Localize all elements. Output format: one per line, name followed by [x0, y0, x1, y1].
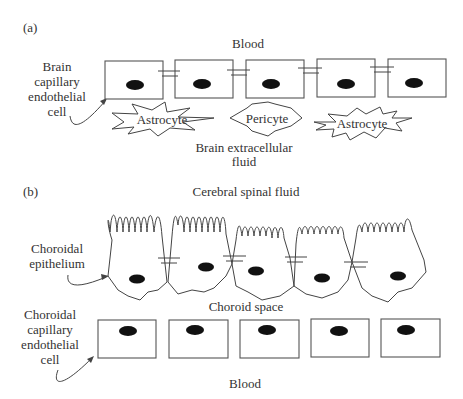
endothelial-cell	[311, 319, 369, 357]
pericyte: Pericyte	[230, 102, 302, 136]
nucleus	[405, 78, 423, 88]
nucleus	[314, 274, 330, 283]
endothelial-cell	[105, 61, 163, 99]
svg-text:cell: cell	[41, 352, 60, 367]
nucleus	[262, 79, 280, 89]
bbb-diagram: (a) Blood Brain capillary endothelial ce…	[0, 0, 463, 399]
endothelial-cell	[317, 59, 375, 97]
endothelial-cell	[175, 60, 233, 98]
nucleus	[126, 80, 144, 90]
astrocyte-right: Astrocyte	[314, 107, 412, 140]
epithelial-cell	[352, 219, 426, 302]
tight-junctions-b	[158, 256, 368, 267]
svg-text:Pericyte: Pericyte	[246, 111, 289, 126]
svg-text:Brain extracellular: Brain extracellular	[195, 140, 293, 155]
panel-a-label: (a)	[23, 20, 37, 35]
svg-text:capillary: capillary	[34, 74, 80, 89]
pointer-arrow-b1	[68, 275, 106, 285]
epithelial-cell	[168, 216, 232, 294]
panel-a: (a) Blood Brain capillary endothelial ce…	[23, 20, 446, 169]
svg-text:capillary: capillary	[27, 322, 73, 337]
brain-extracellular-fluid-label: Brain extracellular fluid	[195, 140, 293, 169]
pointer-arrow-b2	[56, 358, 92, 381]
epithelial-cell	[232, 226, 294, 300]
nucleus	[330, 326, 348, 336]
svg-text:Brain: Brain	[43, 59, 72, 74]
nucleus	[390, 272, 406, 281]
svg-text:Choroidal: Choroidal	[24, 307, 76, 322]
nucleus	[198, 263, 214, 272]
svg-text:Choroidal: Choroidal	[31, 241, 83, 256]
svg-text:endothelial: endothelial	[28, 89, 86, 104]
panel-b: (b) Cerebral spinal fluid Choroidal epit…	[21, 184, 440, 391]
nucleus	[258, 325, 276, 335]
svg-text:endothelial: endothelial	[21, 337, 79, 352]
blood-label-a: Blood	[232, 36, 264, 51]
svg-text:epithelium: epithelium	[29, 256, 85, 271]
svg-text:fluid: fluid	[232, 154, 257, 169]
astrocyte-left: Astrocyte	[112, 102, 214, 136]
endothelial-cell	[388, 59, 446, 97]
nucleus	[397, 325, 415, 335]
choroidal-capillary-endothelial-cell-label: Choroidal capillary endothelial cell	[21, 307, 79, 367]
choroid-space-label: Choroid space	[209, 299, 284, 314]
endothelial-cells-a	[105, 59, 446, 99]
nucleus	[248, 267, 264, 276]
svg-text:Astrocyte: Astrocyte	[137, 112, 188, 127]
nucleus	[337, 79, 355, 89]
svg-text:Astrocyte: Astrocyte	[337, 116, 388, 131]
choroidal-epithelium-label: Choroidal epithelium	[29, 241, 85, 271]
endothelial-cell	[98, 320, 156, 358]
svg-text:cell: cell	[48, 104, 67, 119]
cerebral-spinal-fluid-label: Cerebral spinal fluid	[193, 184, 300, 199]
endothelial-cell	[246, 60, 304, 98]
blood-label-b: Blood	[229, 376, 261, 391]
brain-capillary-endothelial-cell-label: Brain capillary endothelial cell	[28, 59, 86, 119]
panel-b-label: (b)	[23, 184, 38, 199]
nucleus	[193, 79, 211, 89]
endothelial-cell	[381, 319, 440, 357]
nucleus	[186, 325, 204, 335]
endothelial-cells-b	[98, 319, 440, 358]
nucleus	[119, 326, 137, 336]
nucleus	[129, 275, 145, 284]
